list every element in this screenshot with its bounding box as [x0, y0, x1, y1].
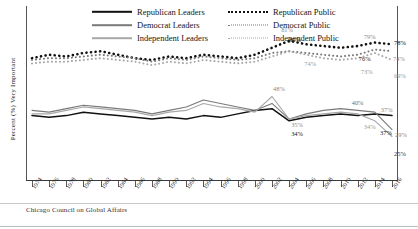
- point-label: 79%: [364, 33, 376, 40]
- point-label: 81%: [281, 26, 293, 33]
- footer-divider: [0, 203, 418, 204]
- point-label: 29%: [395, 131, 407, 138]
- point-label: 48%: [273, 85, 285, 92]
- chart-lines: [26, 6, 398, 180]
- point-label: 40%: [352, 99, 364, 106]
- point-label: 76%: [359, 55, 371, 62]
- point-label: 34%: [291, 130, 303, 137]
- point-label: 34%: [364, 123, 376, 130]
- point-label: 78%: [394, 39, 406, 46]
- plot-area: [26, 6, 398, 180]
- point-label: 37%: [381, 106, 393, 113]
- point-label: 69%: [394, 72, 406, 79]
- point-label: 37%: [380, 129, 392, 136]
- series-line-republican-leaders: [32, 109, 392, 121]
- point-label: 35%: [291, 121, 303, 128]
- point-label: 25%: [394, 150, 406, 157]
- chart-figure: Republican LeadersDemocrat LeadersIndepe…: [0, 0, 418, 229]
- point-label: 74%: [304, 60, 316, 67]
- y-axis-label: Percent (%) Very Important: [9, 34, 17, 164]
- point-label: 80%: [289, 36, 301, 43]
- bottom-divider: [0, 226, 418, 227]
- series-line-republican-public: [32, 41, 392, 60]
- point-label: 74%: [393, 55, 405, 62]
- point-label: 73%: [361, 68, 373, 75]
- source-note: Chicago Council on Global Affairs: [26, 206, 127, 214]
- series-line-democrat-public: [32, 50, 392, 62]
